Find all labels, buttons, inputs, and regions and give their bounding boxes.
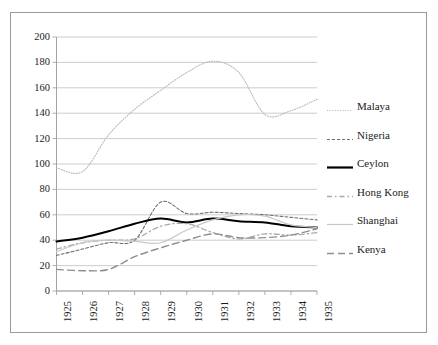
chart-container: 200 180 160 140 120 100 80 60 40 20 0 19… xyxy=(0,0,438,345)
legend-label-shanghai: Shanghai xyxy=(357,214,398,226)
data-series-group xyxy=(57,61,318,271)
legend-item-kenya: Kenya xyxy=(327,243,427,272)
legend-swatch-ceylon xyxy=(327,163,353,172)
legend-label-nigeria: Nigeria xyxy=(357,129,390,141)
legend-label-malaya: Malaya xyxy=(357,100,390,112)
legend-swatch-shanghai xyxy=(327,220,353,229)
legend-label-hong-kong: Hong Kong xyxy=(357,186,409,198)
gridlines xyxy=(57,37,318,291)
legend-swatch-kenya xyxy=(327,249,353,258)
legend-label-ceylon: Ceylon xyxy=(357,157,389,169)
legend-item-nigeria: Nigeria xyxy=(327,129,427,158)
legend-swatch-nigeria xyxy=(327,135,353,144)
series-line-malaya xyxy=(57,61,318,173)
series-line-nigeria xyxy=(57,201,318,255)
legend-item-shanghai: Shanghai xyxy=(327,214,427,243)
legend-label-kenya: Kenya xyxy=(357,243,386,255)
legend-swatch-malaya xyxy=(327,106,353,115)
legend-item-hong-kong: Hong Kong xyxy=(327,186,427,215)
legend-item-malaya: Malaya xyxy=(327,100,427,129)
chart-legend: Malaya Nigeria Ceylon Hong Kong Shanghai… xyxy=(327,100,427,271)
legend-item-ceylon: Ceylon xyxy=(327,157,427,186)
axis-ticks xyxy=(53,37,318,295)
legend-swatch-hong-kong xyxy=(327,192,353,201)
